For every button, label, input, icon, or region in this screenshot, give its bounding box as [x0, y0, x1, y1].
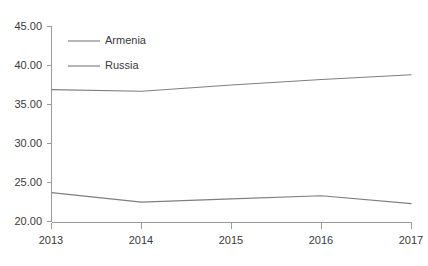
chart-canvas: 45.00 40.00 35.00 30.00 25.00 20.00 2013…	[0, 0, 428, 266]
y-tick-label: 45.00	[14, 20, 42, 32]
x-tick-label: 2016	[309, 234, 333, 246]
line-chart: 45.00 40.00 35.00 30.00 25.00 20.00 2013…	[0, 0, 428, 266]
legend-label-russia: Russia	[105, 59, 140, 71]
y-tick-label: 25.00	[14, 176, 42, 188]
y-tick-label: 40.00	[14, 59, 42, 71]
x-tick-label: 2015	[219, 234, 243, 246]
legend-label-armenia: Armenia	[105, 34, 147, 46]
x-tick-label: 2014	[129, 234, 153, 246]
y-tick-label: 20.00	[14, 215, 42, 227]
y-tick-label: 30.00	[14, 137, 42, 149]
x-tick-label: 2017	[399, 234, 423, 246]
x-tick-label: 2013	[39, 234, 63, 246]
chart-background	[0, 0, 428, 266]
y-tick-label: 35.00	[14, 98, 42, 110]
